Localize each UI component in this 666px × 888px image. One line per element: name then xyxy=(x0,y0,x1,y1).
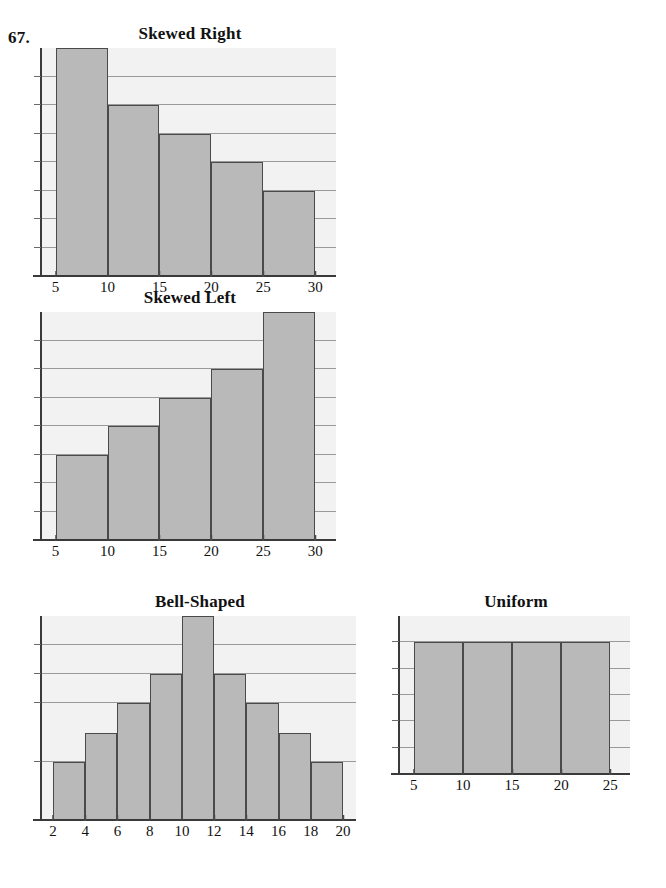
x-axis-labels-skewed-left: 51015202530 xyxy=(40,540,336,562)
x-axis-tick-label: 5 xyxy=(52,543,60,560)
y-axis-tick xyxy=(392,641,399,642)
bar xyxy=(279,733,311,820)
x-axis-tick xyxy=(413,769,415,775)
plot-area-skewed-left xyxy=(40,312,336,540)
x-axis-tick-label: 15 xyxy=(152,279,167,296)
chart-uniform: Uniform 510152025 xyxy=(398,592,634,774)
plot-wrap-bell-shaped: 2468101214161820 xyxy=(40,616,360,820)
y-axis-tick xyxy=(34,482,41,483)
bar xyxy=(182,616,214,820)
y-axis-tick xyxy=(34,218,41,219)
y-axis-tick xyxy=(392,747,399,748)
bar xyxy=(512,642,561,774)
x-axis-tick-label: 20 xyxy=(204,279,219,296)
x-axis-tick-label: 16 xyxy=(271,823,286,840)
y-axis-tick xyxy=(34,702,41,703)
y-axis-tick xyxy=(34,673,41,674)
x-axis-tick-label: 25 xyxy=(256,543,271,560)
bar xyxy=(463,642,512,774)
x-axis-tick xyxy=(278,815,280,821)
y-axis-tick xyxy=(34,644,41,645)
x-axis-tick xyxy=(511,769,513,775)
x-axis-tick-label: 25 xyxy=(603,777,618,794)
y-axis-line xyxy=(40,312,42,540)
x-axis-tick-label: 10 xyxy=(455,777,470,794)
x-axis-tick xyxy=(149,815,151,821)
x-axis-tick-label: 25 xyxy=(256,279,271,296)
x-axis-tick xyxy=(107,535,109,541)
bar xyxy=(56,455,108,541)
bar xyxy=(85,733,117,820)
x-axis-tick xyxy=(55,271,57,277)
y-axis-tick xyxy=(34,340,41,341)
x-axis-tick-label: 5 xyxy=(52,279,60,296)
y-axis-line xyxy=(40,48,42,276)
bar xyxy=(211,369,263,540)
y-axis-tick xyxy=(34,368,41,369)
x-axis-tick xyxy=(159,271,161,277)
x-axis-tick-label: 5 xyxy=(410,777,418,794)
bar xyxy=(53,762,85,820)
y-axis-tick xyxy=(34,161,41,162)
chart-skewed-right: Skewed Right 51015202530 xyxy=(40,24,340,276)
y-axis-tick xyxy=(392,694,399,695)
x-axis-tick xyxy=(181,815,183,821)
x-axis-tick xyxy=(610,769,612,775)
x-axis-tick xyxy=(211,271,213,277)
y-axis-tick xyxy=(392,668,399,669)
x-axis-tick-label: 14 xyxy=(239,823,254,840)
bar xyxy=(159,134,211,277)
x-axis-labels-skewed-right: 51015202530 xyxy=(40,276,336,298)
x-axis-tick xyxy=(246,815,248,821)
x-axis-tick-label: 30 xyxy=(308,279,323,296)
x-axis-tick xyxy=(314,271,316,277)
plot-wrap-skewed-right: 51015202530 xyxy=(40,48,340,276)
x-axis-tick xyxy=(159,535,161,541)
x-axis-tick xyxy=(52,815,54,821)
chart-title-uniform: Uniform xyxy=(398,592,634,612)
x-axis-tick-label: 15 xyxy=(505,777,520,794)
x-axis-tick xyxy=(213,815,215,821)
x-axis-tick-label: 10 xyxy=(100,543,115,560)
bar xyxy=(56,48,108,276)
bar xyxy=(214,674,246,820)
figure-page: 67. Skewed Right 51015202530 Skewed Left… xyxy=(0,0,666,888)
bar xyxy=(159,398,211,541)
plot-wrap-skewed-left: 51015202530 xyxy=(40,312,340,540)
x-axis-tick-label: 10 xyxy=(174,823,189,840)
x-axis-tick xyxy=(560,769,562,775)
y-axis-tick xyxy=(34,511,41,512)
x-axis-tick xyxy=(107,271,109,277)
x-axis-tick-label: 20 xyxy=(554,777,569,794)
plot-area-uniform xyxy=(398,616,630,774)
bar xyxy=(263,312,315,540)
bar xyxy=(150,674,182,820)
plot-area-bell-shaped xyxy=(40,616,356,820)
x-axis-tick-label: 10 xyxy=(100,279,115,296)
x-axis-tick-label: 15 xyxy=(152,543,167,560)
y-axis-line xyxy=(40,616,42,820)
x-axis-tick xyxy=(263,271,265,277)
y-axis-tick xyxy=(34,425,41,426)
bar xyxy=(117,703,149,820)
y-axis-tick xyxy=(34,76,41,77)
y-axis-tick xyxy=(34,247,41,248)
bar-group-skewed-right xyxy=(40,48,336,276)
x-axis-tick-label: 8 xyxy=(146,823,154,840)
y-axis-tick xyxy=(34,397,41,398)
y-axis-tick xyxy=(34,454,41,455)
x-axis-tick xyxy=(314,535,316,541)
x-axis-tick xyxy=(211,535,213,541)
bar xyxy=(211,162,263,276)
x-axis-tick-label: 6 xyxy=(114,823,122,840)
bar-group-uniform xyxy=(398,616,630,774)
plot-wrap-uniform: 510152025 xyxy=(398,616,634,774)
x-axis-tick xyxy=(84,815,86,821)
bar xyxy=(561,642,610,774)
x-axis-tick-label: 12 xyxy=(207,823,222,840)
y-axis-line xyxy=(398,616,400,774)
plot-area-skewed-right xyxy=(40,48,336,276)
bar-group-skewed-left xyxy=(40,312,336,540)
problem-number: 67. xyxy=(8,28,30,48)
x-axis-tick-label: 2 xyxy=(49,823,57,840)
